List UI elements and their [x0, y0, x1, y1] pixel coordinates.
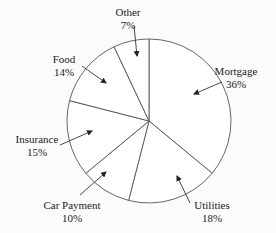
svg-text:Car Payment: Car Payment: [43, 199, 100, 211]
svg-text:36%: 36%: [226, 78, 246, 90]
svg-text:14%: 14%: [54, 66, 74, 78]
svg-text:7%: 7%: [121, 19, 136, 31]
label-food: Food 14%: [53, 53, 76, 78]
label-other: Other 7%: [115, 6, 140, 31]
svg-text:Utilities: Utilities: [194, 199, 229, 211]
svg-text:Other: Other: [115, 6, 140, 18]
svg-text:Food: Food: [53, 53, 76, 65]
svg-text:18%: 18%: [202, 212, 222, 224]
svg-text:15%: 15%: [27, 146, 47, 158]
label-car-payment: Car Payment 10%: [43, 199, 100, 224]
label-insurance: Insurance 15%: [16, 133, 59, 158]
label-utilities: Utilities 18%: [194, 199, 229, 224]
svg-text:Insurance: Insurance: [16, 133, 59, 145]
pie-slices: [67, 39, 231, 203]
svg-text:Mortgage: Mortgage: [215, 65, 258, 77]
pie-chart: Other 7% Food 14% Mortgage 36% Insurance…: [0, 0, 276, 233]
svg-text:10%: 10%: [62, 212, 82, 224]
